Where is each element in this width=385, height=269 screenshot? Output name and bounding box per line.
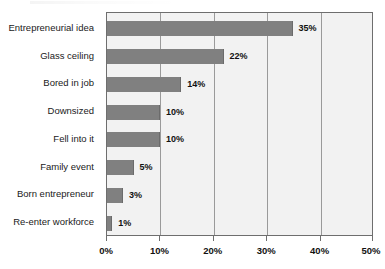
x-axis-tick (106, 236, 107, 241)
bar-row: 1% (107, 216, 372, 231)
x-axis-ticks (106, 236, 373, 242)
bars-layer: 35% 22% 14% 10% 10% 5% (107, 13, 372, 235)
bar-row: 10% (107, 105, 372, 120)
category-label: Family event (40, 162, 94, 172)
x-axis-tick (213, 236, 214, 241)
bar-value-label: 5% (140, 163, 153, 172)
bar-value-label: 10% (166, 108, 184, 117)
category-axis: Entrepreneurial idea Glass ceiling Bored… (0, 12, 100, 236)
category-label: Re-enter workforce (13, 217, 94, 227)
category-label: Downsized (48, 106, 94, 116)
bar-chart: Entrepreneurial idea Glass ceiling Bored… (0, 0, 385, 269)
bar-row: 14% (107, 77, 372, 92)
scan-artifact (30, 1, 180, 4)
bar-row: 5% (107, 160, 372, 175)
x-axis-tick (266, 236, 267, 241)
x-axis-label: 30% (257, 246, 276, 256)
bar (107, 77, 181, 92)
bar (107, 216, 112, 231)
x-axis-tick (159, 236, 160, 241)
bar (107, 132, 160, 147)
bar-value-label: 14% (187, 80, 205, 89)
category-label: Fell into it (53, 134, 94, 144)
bar (107, 188, 123, 203)
x-axis-labels: 0% 10% 20% 30% 40% 50% (0, 246, 385, 262)
x-axis-label: 20% (203, 246, 222, 256)
bar (107, 105, 160, 120)
category-label: Entrepreneurial idea (8, 23, 94, 33)
bar-row: 35% (107, 21, 372, 36)
category-label: Glass ceiling (40, 51, 94, 61)
bar (107, 160, 134, 175)
x-axis-label: 10% (150, 246, 169, 256)
bar-value-label: 22% (230, 52, 248, 61)
bar-value-label: 3% (129, 191, 142, 200)
bar-value-label: 10% (166, 135, 184, 144)
x-axis-label: 50% (361, 246, 380, 256)
x-axis-tick (320, 236, 321, 241)
bar-value-label: 35% (299, 24, 317, 33)
bar-row: 10% (107, 132, 372, 147)
bar (107, 21, 293, 36)
bar-row: 22% (107, 49, 372, 64)
category-label: Bored in job (43, 78, 94, 88)
plot-area: 35% 22% 14% 10% 10% 5% (106, 12, 373, 236)
x-axis-tick (372, 236, 373, 241)
bar-value-label: 1% (118, 219, 131, 228)
x-axis-label: 0% (99, 246, 113, 256)
bar (107, 49, 224, 64)
x-axis-label: 40% (310, 246, 329, 256)
category-label: Born entrepreneur (17, 189, 94, 199)
bar-row: 3% (107, 188, 372, 203)
